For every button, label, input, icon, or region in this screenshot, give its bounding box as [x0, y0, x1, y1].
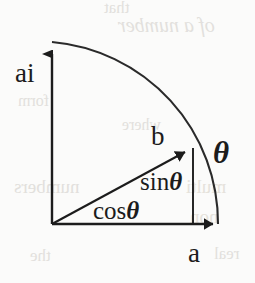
cos-theta-label: cosθ: [93, 198, 139, 223]
vector-label-b: b: [151, 123, 165, 150]
trigonometry-figure: that of a number form where numbers mult…: [0, 0, 255, 283]
real-axis-label: a: [188, 240, 200, 267]
sin-function-name: sin: [140, 168, 169, 195]
theta-symbol: θ: [169, 168, 182, 195]
theta-symbol: θ: [126, 197, 139, 224]
angle-theta-label: θ: [213, 137, 229, 168]
cos-function-name: cos: [93, 197, 126, 224]
imaginary-axis-label: ai: [15, 60, 35, 87]
sin-theta-label: sinθ: [140, 169, 182, 194]
